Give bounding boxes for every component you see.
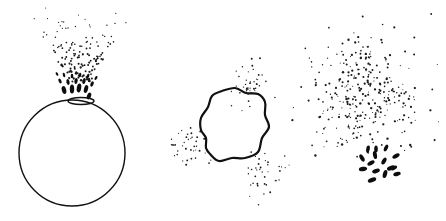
spray-particle (89, 47, 91, 49)
cloud-particle (409, 95, 411, 97)
cloud-particle (345, 59, 347, 61)
breach-particle (269, 191, 271, 193)
cloud-particle (388, 99, 390, 101)
breach-particle (246, 80, 247, 81)
breach-particle (281, 166, 282, 167)
cloud-particle (326, 140, 328, 142)
spray-particle (54, 51, 56, 53)
cloud-particle (413, 54, 415, 56)
cloud-particle (380, 39, 382, 41)
spray-particle (66, 71, 68, 73)
breach-particle (195, 157, 197, 159)
cloud-particle (378, 111, 379, 112)
breach-particle (259, 57, 261, 59)
cloud-particle (438, 121, 439, 122)
cloud-particle (349, 103, 351, 105)
cloud-particle (357, 83, 359, 85)
cloud-particle (360, 53, 362, 55)
cloud-particle (357, 69, 359, 71)
breach-particle (236, 71, 237, 72)
cloud-particle (393, 91, 395, 93)
spray-particle (71, 58, 73, 60)
cloud-particle (293, 107, 294, 108)
spray-particle (61, 64, 63, 66)
breach-particle (267, 171, 268, 172)
spray-particle (71, 80, 73, 82)
cloud-particle (376, 65, 378, 67)
breach-particle (177, 150, 178, 151)
cloud-particle (343, 101, 344, 102)
cloud-particle (371, 69, 373, 71)
cloud-particle (370, 51, 371, 52)
breach-particle (256, 83, 257, 84)
spray-particle (85, 19, 86, 20)
cloud-particle (342, 81, 344, 83)
cloud-particle (314, 79, 316, 81)
cloud-particle (370, 107, 372, 109)
cloud-particle (347, 71, 349, 73)
spray-particle (88, 62, 90, 64)
spray-particle (69, 47, 71, 49)
cloud-particle (355, 99, 357, 101)
cloud-particle (337, 142, 339, 144)
spray-particle (90, 60, 92, 62)
cloud-particle (357, 127, 359, 129)
cloud-particle (355, 52, 357, 54)
spray-particle (74, 43, 76, 45)
spray-particle (47, 18, 48, 19)
breach-particle (258, 163, 260, 165)
cloud-particle (359, 102, 361, 104)
cloud-particle (409, 144, 411, 146)
cloud-particle (342, 43, 344, 45)
spray-particle (95, 60, 97, 62)
spray-particle (84, 64, 86, 66)
cloud-particle (350, 74, 352, 76)
cloud-particle (384, 86, 386, 88)
cloud-particle (398, 95, 400, 97)
cloud-particle (374, 102, 376, 104)
cloud-particle (348, 125, 349, 126)
cloud-particle (362, 99, 364, 101)
cloud-particle (389, 77, 390, 78)
spray-particle (75, 71, 77, 73)
spray-particle (74, 53, 76, 55)
cloud-particle (401, 132, 402, 133)
breach-particle (254, 175, 256, 177)
cloud-particle (394, 102, 396, 104)
spray-particle (73, 50, 75, 52)
cloud-particle (410, 122, 412, 124)
cloud-particle (382, 24, 384, 26)
cloud-particle (314, 154, 316, 156)
cloud-particle (354, 75, 355, 76)
cloud-particle (402, 89, 403, 90)
cloud-particle (402, 119, 404, 121)
cloud-particle (369, 118, 370, 119)
cloud-particle (356, 137, 358, 139)
cloud-particle (352, 98, 354, 100)
cloud-particle (373, 121, 375, 123)
cloud-particle (390, 81, 392, 83)
cloud-particle (315, 84, 317, 86)
cloud-particle (346, 116, 348, 118)
cloud-particle (360, 50, 362, 52)
cloud-particle (348, 126, 350, 128)
cloud-particle (342, 71, 344, 73)
spray-particle (90, 73, 92, 75)
cloud-particle (431, 88, 433, 90)
cloud-particle (341, 51, 343, 53)
cloud-particle (337, 96, 338, 97)
cloud-particle (367, 46, 368, 47)
breach-particle (231, 91, 232, 92)
breach-particle (274, 97, 276, 99)
cloud-particle (318, 98, 320, 100)
spray-particle (68, 77, 70, 79)
cloud-particle (335, 87, 337, 89)
breach-particle (249, 82, 251, 84)
spray-particle (85, 37, 87, 39)
cloud-particle (364, 117, 366, 119)
cloud-particle (345, 96, 347, 98)
cloud-particle (346, 64, 348, 66)
spray-particle (61, 44, 63, 46)
breach-particle (241, 110, 242, 111)
cloud-particle (359, 114, 361, 116)
